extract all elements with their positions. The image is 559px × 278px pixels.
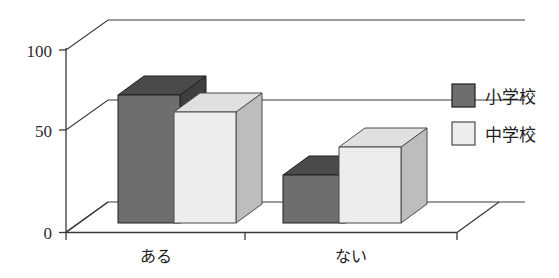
bar-front xyxy=(118,95,180,223)
bar-front xyxy=(283,175,345,223)
bar-chart-3d: 100 50 0 xyxy=(0,0,559,278)
category-label-aru: ある xyxy=(140,247,172,266)
y-tick-label-50: 50 xyxy=(35,122,52,141)
bar-front xyxy=(174,112,236,223)
legend-swatch-chuugakkou xyxy=(452,122,475,145)
floor-left-edge xyxy=(66,202,108,233)
bar-nai-chuugakkou xyxy=(339,128,427,223)
gridline-100 xyxy=(66,20,525,50)
bar-side xyxy=(236,93,262,223)
legend-swatch-shougakkou xyxy=(452,84,475,107)
floor-right-edge xyxy=(457,202,499,233)
category-label-nai: ない xyxy=(335,247,367,266)
legend-label-shougakkou: 小学校 xyxy=(485,87,536,107)
y-tick-label-100: 100 xyxy=(27,42,53,61)
chart-container: 100 50 0 xyxy=(0,0,559,278)
legend: 小学校 中学校 xyxy=(452,84,536,145)
bar-aru-chuugakkou xyxy=(174,93,262,223)
y-tick-label-0: 0 xyxy=(44,224,53,243)
legend-label-chuugakkou: 中学校 xyxy=(485,125,536,145)
bar-front xyxy=(339,147,401,223)
